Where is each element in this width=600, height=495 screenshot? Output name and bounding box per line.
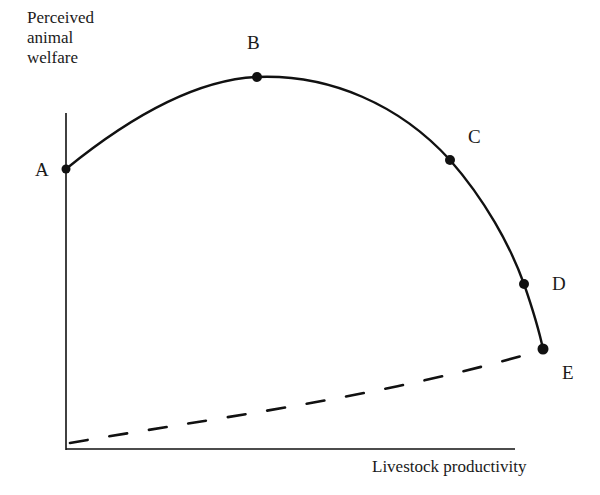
point-c-marker — [445, 155, 455, 165]
y-axis-label-line-3: welfare — [27, 48, 157, 68]
welfare-curve-dashed — [70, 352, 535, 443]
point-e-label: E — [562, 363, 574, 382]
point-b-marker — [252, 72, 262, 82]
point-e-marker — [538, 344, 549, 355]
point-c-label: C — [468, 127, 481, 146]
x-axis-label: Livestock productivity — [372, 458, 526, 475]
point-d-label: D — [552, 274, 566, 293]
y-axis-label-line-2: animal — [27, 28, 157, 48]
welfare-curve-solid — [66, 77, 543, 349]
point-b-label: B — [247, 33, 260, 52]
welfare-productivity-diagram — [0, 0, 600, 495]
y-axis-label: Perceived animal welfare — [27, 8, 157, 68]
y-axis-label-line-1: Perceived — [27, 8, 157, 28]
point-a-marker — [62, 165, 71, 174]
point-d-marker — [519, 279, 529, 289]
point-a-label: A — [35, 160, 49, 179]
